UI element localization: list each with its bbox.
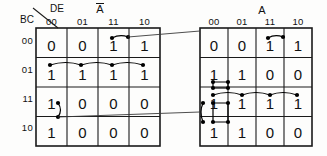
group-dot (211, 80, 215, 84)
right-map-grid (200, 28, 312, 146)
right-group-col00-vertical-pair (201, 101, 205, 124)
group-dot (110, 36, 114, 40)
right-group-lower-quad-box (211, 101, 230, 124)
left-group-row01-quad (48, 63, 145, 68)
group-dot (226, 101, 230, 105)
right-group-row00-pair (266, 35, 285, 40)
group-dot (141, 63, 145, 67)
group-dot (201, 120, 205, 124)
group-dot (295, 93, 299, 97)
group-dot (266, 36, 270, 40)
group-dot (268, 93, 272, 97)
group-dot (201, 101, 205, 105)
group-dot (110, 63, 114, 67)
group-dot (211, 86, 215, 90)
cross-map-connector (128, 31, 200, 37)
group-dot (281, 35, 285, 39)
group-dot (211, 120, 215, 124)
right-group-upper-quad-box (211, 80, 230, 90)
group-dot (211, 93, 215, 97)
group-dot (226, 86, 230, 90)
group-dot (48, 63, 52, 67)
group-dot (226, 80, 230, 84)
left-map-grid (36, 28, 160, 146)
group-dot (56, 101, 60, 105)
kmap-vector-layer (0, 0, 327, 156)
group-dot (211, 101, 215, 105)
left-group-row00-pair (110, 31, 200, 40)
group-dot (79, 63, 83, 67)
right-group-row11-quad (211, 93, 299, 98)
group-dot (226, 120, 230, 124)
axis-divider-slash (33, 8, 58, 28)
group-dot (240, 93, 244, 97)
kmap-diagram: BC DE A A 00 01 11 10 00 01 11 10 00 01 … (0, 0, 327, 156)
